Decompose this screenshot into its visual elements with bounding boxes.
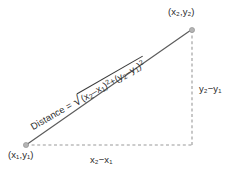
label-horizontal-leg-text: x₂−x₁ [90,154,112,165]
label-point-2: (x₂,y₂) [168,7,195,17]
label-point-2-text: (x₂,y₂) [168,6,195,17]
label-point-1-text: (x₁,y₁) [8,149,34,160]
distance-formula-diagram: (x₂,y₂) (x₁,y₁) y₂−y₁ x₂−x₁ Distance =√(… [0,0,237,176]
label-vertical-leg: y₂−y₁ [199,84,221,94]
vertex-dot-point1 [23,142,28,147]
label-point-1: (x₁,y₁) [8,150,34,160]
label-horizontal-leg: x₂−x₁ [90,155,112,165]
radical-sign-icon: √ [74,99,80,103]
label-vertical-leg-text: y₂−y₁ [199,83,221,94]
vertex-dot-point2 [189,27,194,32]
